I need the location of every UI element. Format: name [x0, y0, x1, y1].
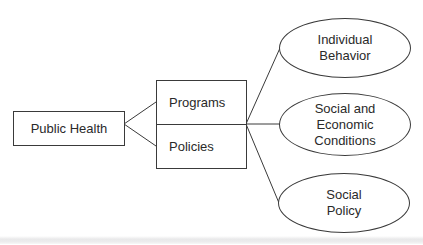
social-policy-label: Social Policy [326, 187, 361, 219]
policies-label: Policies [169, 139, 214, 154]
label-line: Policy [326, 203, 361, 219]
social-policy-ellipse: Social Policy [278, 173, 410, 233]
social-economic-conditions-label: Social and Economic Conditions [314, 101, 375, 149]
label-line: Social [326, 187, 361, 203]
policies-cell: Policies [157, 125, 246, 168]
label-line: Economic [314, 117, 375, 133]
connector-to-social-policy [246, 124, 279, 203]
public-health-label: Public Health [31, 121, 108, 136]
scan-artifact-band [0, 236, 423, 244]
public-health-box: Public Health [13, 111, 125, 146]
label-line: Individual [318, 32, 373, 48]
connector-to-individual-behavior [246, 48, 280, 124]
label-line: Conditions [314, 133, 375, 149]
individual-behavior-ellipse: Individual Behavior [279, 18, 411, 78]
programs-cell: Programs [157, 81, 246, 125]
diagram-canvas: Public Health Programs Policies Individu… [0, 0, 423, 245]
programs-label: Programs [169, 95, 225, 110]
label-line: Social and [314, 101, 375, 117]
connector-root-to-programs [124, 102, 156, 124]
label-line: Behavior [318, 48, 373, 64]
programs-policies-box: Programs Policies [156, 80, 247, 169]
individual-behavior-label: Individual Behavior [318, 32, 373, 64]
social-economic-conditions-ellipse: Social and Economic Conditions [279, 93, 411, 156]
connector-root-to-policies [124, 124, 156, 146]
